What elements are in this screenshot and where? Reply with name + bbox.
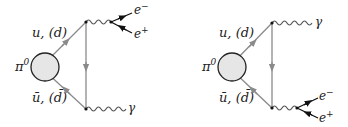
quark-arrow-icon	[62, 41, 67, 46]
positron-label: e+	[134, 25, 149, 41]
pion-label: π0	[201, 57, 217, 74]
diagram-left: π0 u, (d) ū, (d̄) e− e+ γ	[14, 1, 149, 115]
pion-blob	[31, 53, 59, 81]
virtual-photon	[272, 106, 297, 110]
electron-arrow-icon	[304, 102, 309, 105]
virtual-photon	[86, 20, 111, 24]
positron-arrow-icon	[307, 113, 312, 115]
antiquark-label: ū, (d̄)	[32, 89, 67, 105]
real-photon	[272, 21, 312, 25]
electron-label: e−	[319, 87, 334, 103]
electron-arrow-icon	[118, 17, 123, 19]
quark-label: u, (d)	[219, 25, 254, 40]
antiquark-label: ū, (d̄)	[219, 89, 254, 105]
pion-label: π0	[14, 57, 30, 74]
vertex-dot	[84, 107, 87, 110]
positron-arrow-icon	[121, 27, 126, 30]
positron-label: e+	[319, 109, 334, 125]
vertex-dot	[270, 21, 273, 24]
electron-label: e−	[134, 1, 149, 17]
vertex-dot	[270, 106, 273, 109]
gamma-label: γ	[128, 101, 136, 115]
real-photon	[86, 107, 126, 111]
diagram-right: π0 u, (d) ū, (d̄) γ e− e+	[201, 15, 334, 125]
pion-blob	[218, 53, 246, 81]
gamma-label: γ	[315, 15, 323, 29]
feynman-diagrams: π0 u, (d) ū, (d̄) e− e+ γ π0 u, (d) ū, (…	[0, 0, 348, 127]
vertex-dot	[84, 20, 87, 23]
quark-arrow-icon	[249, 42, 254, 47]
quark-label: u, (d)	[32, 25, 67, 40]
